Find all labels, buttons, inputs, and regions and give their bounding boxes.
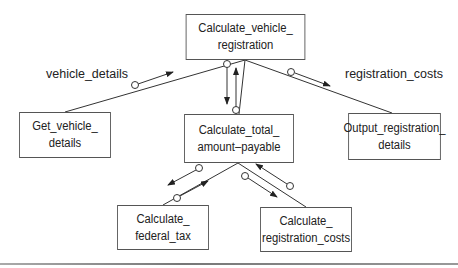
connector-total-regcosts [238,163,306,207]
module-output-registration-details: Output_registration_ details [348,113,441,160]
module-label-line2: registration_costs [262,230,350,247]
module-label-line2: amount–payable [197,139,280,156]
module-label-line1: Output_registration_ [344,120,446,137]
module-label-line2: registration [218,37,274,54]
data-couple-icon [288,69,295,76]
connector-top-calc-total [239,60,245,114]
data-couple-icon [224,61,231,68]
data-couple-icon [196,165,203,172]
data-couple-icon [233,107,240,114]
module-calculate-registration-costs: Calculate_ registration_costs [260,207,352,252]
module-label-line2: details [49,135,82,152]
module-label-line1: Calculate_vehicle_ [198,20,292,37]
module-label-line1: Calculate_ [279,213,332,230]
module-label-line1: Calculate_ [136,211,189,228]
module-calculate-federal-tax: Calculate_ federal_tax [117,205,209,250]
module-label-line1: Get_vehicle_ [32,118,98,135]
data-couple-icon [132,82,139,89]
module-label-line2: federal_tax [135,228,191,245]
module-label-line1: Calculate_total_ [199,122,280,139]
module-calculate-vehicle-registration: Calculate_vehicle_ registration [186,14,306,60]
data-couple-icon [174,195,181,202]
module-get-vehicle-details: Get_vehicle_ details [19,112,111,158]
data-couple-icon [287,183,294,190]
flow-label-registration-costs: registration_costs [345,67,443,81]
bottom-divider [0,263,458,265]
flow-label-vehicle-details: vehicle_details [46,67,128,81]
module-label-line2: details [378,137,411,154]
structure-chart: Calculate_vehicle_ registration Get_vehi… [0,0,458,268]
data-couple-icon [242,173,249,180]
module-calculate-total-amount-payable: Calculate_total_ amount–payable [184,114,294,163]
